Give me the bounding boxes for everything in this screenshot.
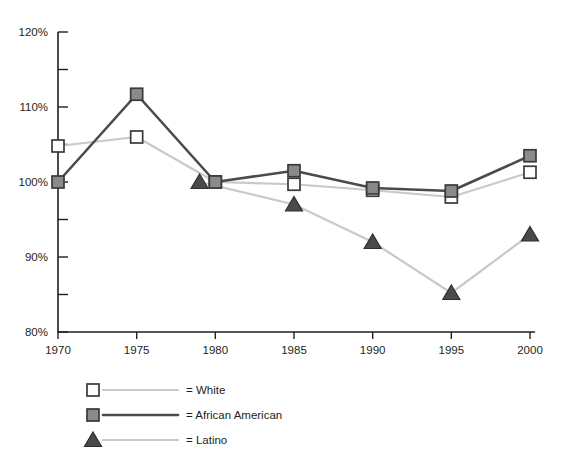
marker-filled-square-african-american <box>131 88 143 100</box>
marker-filled-square-african-american <box>209 176 221 188</box>
marker-filled-square-african-american <box>367 182 379 194</box>
x-axis-label: 1980 <box>203 344 229 356</box>
marker-open-square-white <box>131 131 143 143</box>
marker-open-square-white <box>524 166 536 178</box>
marker-open-square-white <box>288 178 300 190</box>
marker-open-square-white <box>52 140 64 152</box>
marker-filled-square-african-american <box>52 176 64 188</box>
y-axis-label: 90% <box>25 251 48 263</box>
chart-background <box>0 0 565 460</box>
x-axis-label: 1975 <box>124 344 150 356</box>
marker-filled-square-african-american <box>445 185 457 197</box>
y-axis-label: 80% <box>25 326 48 338</box>
x-axis-label: 1995 <box>439 344 465 356</box>
x-axis-label: 1990 <box>360 344 386 356</box>
y-axis-label: 120% <box>19 26 48 38</box>
marker-open-square-legend-0 <box>87 384 99 396</box>
y-axis-label: 110% <box>19 101 48 113</box>
x-axis-label: 1970 <box>45 344 71 356</box>
x-axis-label: 2000 <box>517 344 543 356</box>
legend-label-latino: = Latino <box>186 434 227 446</box>
marker-filled-square-african-american <box>288 165 300 177</box>
line-chart: 120%110%100%90%80% 197019751980198519901… <box>0 0 565 460</box>
x-axis-label: 1985 <box>281 344 307 356</box>
marker-filled-square-legend-1 <box>87 409 99 421</box>
chart-canvas: 120%110%100%90%80% 197019751980198519901… <box>0 0 565 460</box>
legend-label-white: = White <box>186 384 225 396</box>
legend-label-african-american: = African American <box>186 409 282 421</box>
marker-filled-square-african-american <box>524 150 536 162</box>
y-axis-label: 100% <box>19 176 48 188</box>
